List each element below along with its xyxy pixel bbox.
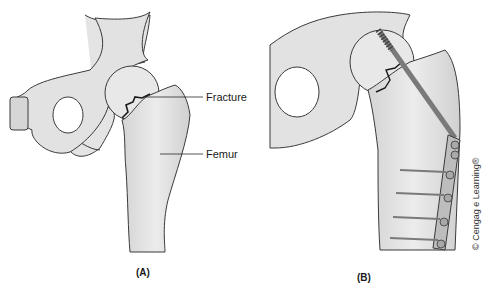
copyright-notice: © Cengag e Learning®	[471, 158, 481, 250]
caption-b: (B)	[357, 272, 371, 283]
obturator-foramen	[275, 67, 319, 117]
fixed-hip-illustration	[260, 0, 490, 292]
panel-a-fractured-hip: Fracture Femur (A)	[0, 0, 250, 292]
femur-label: Femur	[206, 148, 238, 160]
fractured-hip-illustration	[0, 0, 250, 292]
panel-b-fixed-hip: (B) © Cengag e Learning®	[260, 0, 490, 292]
caption-a: (A)	[136, 267, 150, 278]
pubic-symphysis	[10, 97, 28, 130]
fracture-label: Fracture	[206, 91, 247, 103]
obturator-foramen	[53, 97, 83, 133]
